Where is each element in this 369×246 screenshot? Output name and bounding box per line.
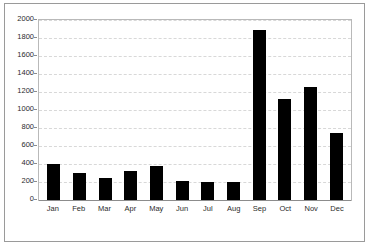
- x-axis-tick-label-apr: Apr: [117, 205, 143, 219]
- bar-slot: [195, 20, 221, 200]
- x-axis-tick-label-jun: Jun: [169, 205, 195, 219]
- bar-nov: [304, 87, 317, 200]
- x-axis-tick-label-nov: Nov: [298, 205, 324, 219]
- bar-chart-figure: 0200400600800100012001400160018002000 Ja…: [0, 0, 369, 246]
- bar-oct: [278, 99, 291, 200]
- bar-slot: [298, 20, 324, 200]
- y-axis-tick-mark: [34, 37, 37, 38]
- y-axis-tick-mark: [34, 181, 37, 182]
- bar-slot: [246, 20, 272, 200]
- x-axis-tick-label-sep: Sep: [247, 205, 273, 219]
- bar-series: [39, 20, 351, 200]
- x-axis-tick-label-aug: Aug: [221, 205, 247, 219]
- bar-slot: [41, 20, 67, 200]
- x-axis-tick-label-may: May: [143, 205, 169, 219]
- y-axis-tick-labels: 0200400600800100012001400160018002000: [0, 19, 34, 201]
- y-axis-tick-mark: [34, 163, 37, 164]
- bar-sep: [253, 30, 266, 200]
- bar-slot: [118, 20, 144, 200]
- bar-slot: [221, 20, 247, 200]
- y-axis-tick-label: 800: [21, 123, 34, 131]
- bar-feb: [73, 173, 86, 200]
- y-axis-tick-label: 600: [21, 141, 34, 149]
- bar-slot: [92, 20, 118, 200]
- bar-slot: [67, 20, 93, 200]
- y-axis-tick-label: 2000: [17, 15, 34, 23]
- y-axis-tick-label: 1600: [17, 51, 34, 59]
- y-axis-tick-label: 1200: [17, 87, 34, 95]
- x-axis-tick-label-dec: Dec: [324, 205, 350, 219]
- y-axis-tick-mark: [34, 19, 37, 20]
- bar-mar: [99, 178, 112, 201]
- bar-slot: [144, 20, 170, 200]
- x-axis-tick-label-mar: Mar: [92, 205, 118, 219]
- y-axis-tick-label: 1800: [17, 33, 34, 41]
- y-axis-tick-mark: [34, 73, 37, 74]
- bar-jan: [47, 164, 60, 200]
- bar-slot: [272, 20, 298, 200]
- x-axis-tick-labels: JanFebMarAprMayJunJulAugSepOctNovDec: [38, 205, 352, 219]
- y-axis-tick-label: 400: [21, 159, 34, 167]
- y-axis-tick-mark: [34, 91, 37, 92]
- y-axis-tick-mark: [34, 145, 37, 146]
- plot-area: [38, 19, 352, 201]
- y-axis-tick-label: 1400: [17, 69, 34, 77]
- bar-slot: [169, 20, 195, 200]
- y-axis-tick-mark: [34, 109, 37, 110]
- gridline: [39, 200, 351, 201]
- bar-jun: [176, 181, 189, 200]
- y-axis-tick-mark: [34, 199, 37, 200]
- bar-aug: [227, 182, 240, 200]
- y-axis-tick-mark: [34, 55, 37, 56]
- x-axis-tick-label-jan: Jan: [40, 205, 66, 219]
- y-axis-tick-label: 1000: [17, 105, 34, 113]
- x-axis-tick-label-jul: Jul: [195, 205, 221, 219]
- bar-may: [150, 166, 163, 200]
- x-axis-tick-label-feb: Feb: [66, 205, 92, 219]
- x-axis-tick-label-oct: Oct: [272, 205, 298, 219]
- bar-slot: [323, 20, 349, 200]
- bar-dec: [330, 133, 343, 200]
- bar-apr: [124, 171, 137, 200]
- y-axis-tick-label: 200: [21, 177, 34, 185]
- y-axis-tick-mark: [34, 127, 37, 128]
- bar-jul: [201, 182, 214, 200]
